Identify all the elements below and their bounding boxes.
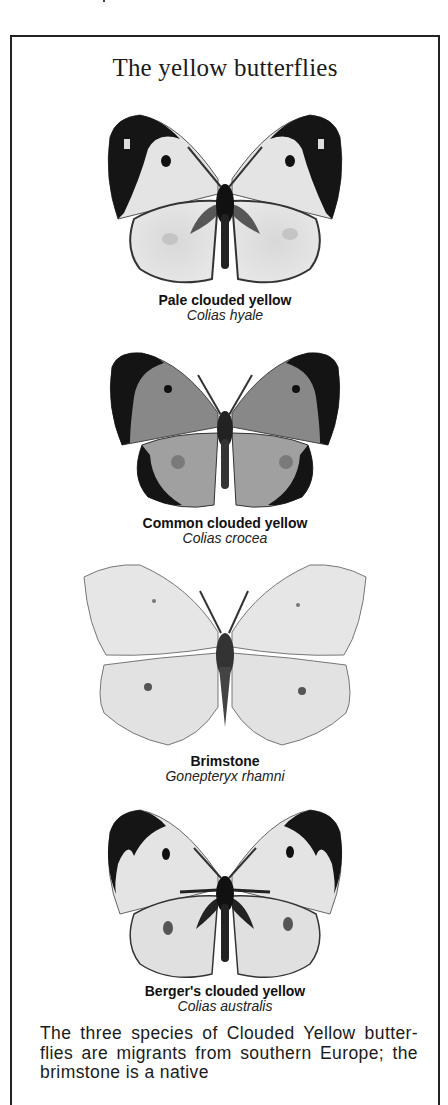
common-name-label: Common clouded yellow xyxy=(12,516,438,531)
butterfly-common-clouded-yellow-icon xyxy=(100,347,350,512)
common-name-label: Brimstone xyxy=(12,754,438,769)
butterfly-panel: The yellow butterflies xyxy=(10,35,440,1105)
specimen-pale-clouded-yellow: Pale clouded yellow Colias hyale xyxy=(12,109,438,323)
butterfly-brimstone-icon xyxy=(80,557,370,752)
common-name-label: Berger's clouded yellow xyxy=(12,984,438,999)
butterfly-bergers-clouded-yellow-icon xyxy=(100,804,350,984)
cropped-text-fragment xyxy=(103,0,105,2)
specimen-brimstone: Brimstone Gonepteryx rhamni xyxy=(12,557,438,784)
caption-paragraph: The three species of Clouded Yellow butt… xyxy=(40,1024,418,1083)
specimen-common-clouded-yellow: Common clouded yellow Colias crocea xyxy=(12,347,438,546)
specimen-bergers-clouded-yellow: Berger's clouded yellow Colias australis xyxy=(12,804,438,1014)
latin-name-label: Colias australis xyxy=(12,999,438,1014)
latin-name-label: Colias hyale xyxy=(12,308,438,323)
latin-name-label: Gonepteryx rhamni xyxy=(12,769,438,784)
common-name-label: Pale clouded yellow xyxy=(12,293,438,308)
latin-name-label: Colias crocea xyxy=(12,531,438,546)
butterfly-pale-clouded-yellow-icon xyxy=(100,109,350,289)
page-title: The yellow butterflies xyxy=(12,54,438,82)
